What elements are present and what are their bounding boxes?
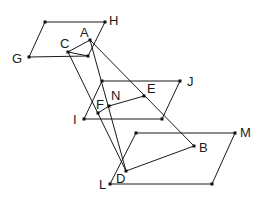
parallelogram-lm-side: [212, 133, 235, 184]
label-f: F: [96, 97, 104, 112]
geometry-diagram: H G A C J E N F I M B D L: [0, 0, 262, 200]
point-h: [104, 21, 107, 24]
point-l: [109, 183, 112, 186]
label-i: I: [73, 112, 77, 127]
label-a: A: [80, 25, 89, 40]
segment-c-a: [68, 40, 90, 52]
label-b: B: [199, 140, 208, 155]
point-p3: [101, 80, 104, 83]
parallelogram-gh-side: [29, 22, 45, 57]
parallelogram-gh-side: [29, 56, 88, 57]
label-l: L: [99, 177, 106, 192]
point-b: [193, 145, 196, 148]
label-e: E: [147, 81, 156, 96]
point-p5: [135, 132, 138, 135]
point-i: [83, 118, 86, 121]
label-m: M: [240, 125, 251, 140]
parallelogram-ij-side: [162, 81, 180, 119]
segment-d-b: [126, 146, 194, 171]
point-p2: [87, 55, 90, 58]
point-p6: [211, 183, 214, 186]
point-p1: [44, 21, 47, 24]
label-d: D: [116, 171, 125, 186]
label-c: C: [60, 36, 69, 51]
label-g: G: [12, 51, 22, 66]
point-e: [143, 95, 146, 98]
point-j: [179, 80, 182, 83]
point-g: [28, 56, 31, 59]
point-p4: [161, 118, 164, 121]
label-h: H: [109, 13, 118, 28]
label-n: N: [111, 88, 120, 103]
point-a: [89, 39, 92, 42]
label-j: J: [187, 74, 194, 89]
point-n: [108, 105, 111, 108]
point-m: [234, 132, 237, 135]
segment-c-p2: [68, 52, 88, 56]
